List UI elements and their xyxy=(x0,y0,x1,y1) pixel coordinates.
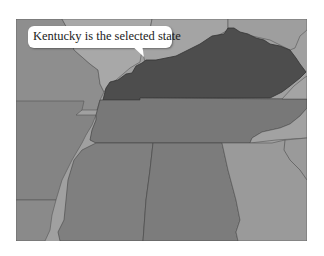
callout-pointer xyxy=(130,44,150,60)
state-map[interactable] xyxy=(16,19,307,241)
selection-callout: Kentucky is the selected state xyxy=(28,26,172,48)
map-view[interactable] xyxy=(16,19,307,241)
callout-text: Kentucky is the selected state xyxy=(33,29,181,44)
